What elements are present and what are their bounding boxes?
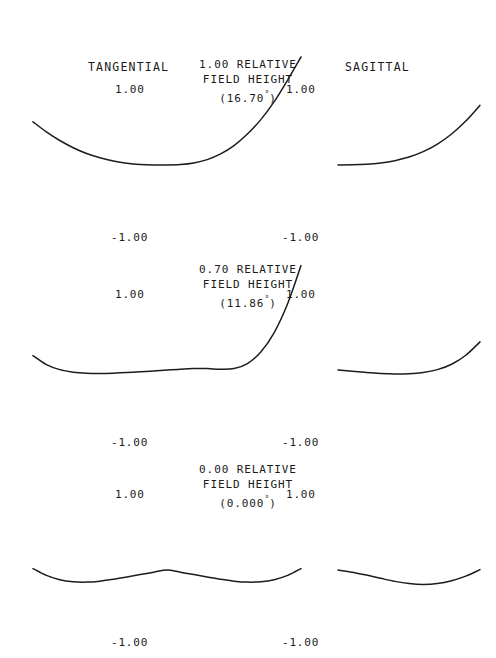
field-height-caption-row1: 0.70 RELATIVEFIELD HEIGHT(11.86°) [178, 262, 318, 311]
ytick-bottom-tangential-row1: -1.00 [111, 436, 148, 450]
field-angle-row1: (11.86°) [178, 292, 318, 311]
ytick-bottom-tangential-row0: -1.00 [111, 231, 148, 245]
field-relative-row2: 0.00 RELATIVE [178, 462, 318, 477]
ytick-bottom-sagittal-row0: -1.00 [282, 231, 319, 245]
ytick-top-tangential-row2: 1.00 [115, 488, 145, 502]
field-height-label-row0: FIELD HEIGHT [178, 72, 318, 87]
field-relative-row1: 0.70 RELATIVE [178, 262, 318, 277]
ytick-top-tangential-row1: 1.00 [115, 288, 145, 302]
field-height-label-row2: FIELD HEIGHT [178, 477, 318, 492]
field-angle-close-row2: ) [269, 497, 277, 510]
field-relative-row0: 1.00 RELATIVE [178, 57, 318, 72]
column-heading-sagittal: SAGITTAL [345, 60, 410, 74]
ytick-top-tangential-row0: 1.00 [115, 83, 145, 97]
ray-curve-sagittal-row1 [338, 342, 480, 374]
field-height-label-row1: FIELD HEIGHT [178, 277, 318, 292]
field-height-caption-row2: 0.00 RELATIVEFIELD HEIGHT(0.000°) [178, 462, 318, 511]
ray-curve-sagittal-row0 [338, 105, 480, 165]
field-angle-close-row1: ) [269, 297, 277, 310]
field-angle-value-row2: (0.000 [219, 497, 264, 510]
column-heading-tangential: TANGENTIAL [88, 60, 169, 74]
field-angle-value-row0: (16.70 [219, 92, 264, 105]
ytick-bottom-sagittal-row2: -1.00 [282, 636, 319, 650]
ray-fan-figure: TANGENTIALSAGITTAL1.00-1.001.00-1.001.00… [0, 0, 496, 658]
ytick-bottom-sagittal-row1: -1.00 [282, 436, 319, 450]
field-angle-close-row0: ) [269, 92, 277, 105]
field-angle-row2: (0.000°) [178, 492, 318, 511]
ray-curve-sagittal-row2 [338, 570, 480, 585]
field-angle-value-row1: (11.86 [219, 297, 264, 310]
field-angle-row0: (16.70°) [178, 87, 318, 106]
ytick-bottom-tangential-row2: -1.00 [111, 636, 148, 650]
field-height-caption-row0: 1.00 RELATIVEFIELD HEIGHT(16.70°) [178, 57, 318, 106]
ray-curve-tangential-row2 [33, 569, 301, 583]
